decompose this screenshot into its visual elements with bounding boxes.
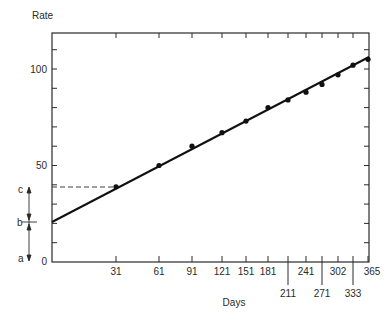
- data-point: [219, 130, 224, 135]
- x-axis-title: Days: [223, 297, 246, 308]
- x-tick-label: 241: [298, 266, 315, 277]
- rate-vs-days-chart: Rate 316191121151181211241271302333365 1…: [0, 0, 392, 324]
- y-axis-title: Rate: [32, 10, 54, 21]
- x-tick-label: 151: [238, 266, 255, 277]
- x-tick-label: 302: [330, 266, 347, 277]
- x-tick-label: 211: [280, 288, 296, 299]
- data-point: [265, 105, 270, 110]
- data-point: [303, 90, 308, 95]
- x-tick-label: 121: [214, 266, 231, 277]
- abc-bracket: [22, 187, 37, 261]
- data-point: [156, 163, 161, 168]
- label-b: b: [17, 217, 23, 228]
- label-c: c: [18, 184, 23, 195]
- data-point: [365, 57, 370, 62]
- y-tick-label-50: 50: [36, 160, 48, 171]
- x-tick-label: 271: [314, 288, 331, 299]
- y-tick-label-100: 100: [30, 64, 47, 75]
- x-tick-label: 91: [186, 266, 198, 277]
- y-axis-ticks: [52, 50, 369, 243]
- label-a: a: [18, 253, 24, 264]
- x-tick-label: 365: [364, 266, 381, 277]
- x-tick-label: 333: [345, 288, 362, 299]
- data-point: [285, 97, 290, 102]
- data-point: [335, 72, 340, 77]
- data-point: [113, 184, 118, 189]
- data-point: [243, 119, 248, 124]
- data-point: [319, 82, 324, 87]
- plot-frame: [52, 33, 369, 262]
- y-tick-label-0: 0: [41, 256, 47, 267]
- x-tick-label: 181: [260, 266, 277, 277]
- x-tick-label: 61: [153, 266, 165, 277]
- data-point: [189, 144, 194, 149]
- x-tick-label: 31: [110, 266, 122, 277]
- data-point: [350, 63, 355, 68]
- fit-line: [52, 57, 369, 222]
